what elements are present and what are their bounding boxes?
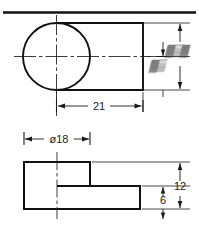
dim-12-arrow-down: [178, 201, 183, 208]
engineering-drawing: 21: [0, 0, 199, 236]
dim-21-arrow-left: [58, 104, 65, 109]
top-outer-arrow-down: [178, 82, 183, 89]
top-view: 21: [14, 15, 190, 116]
dim-diameter-18-label: ø18: [50, 133, 69, 145]
dim-6-arrow-up: [161, 187, 165, 194]
dimension-6: 6: [160, 187, 166, 219]
dim-6-label: 6: [160, 194, 166, 206]
top-view-vertical-dimensions: [143, 23, 190, 97]
dimension-diameter-18: ø18: [24, 132, 90, 145]
dim-21-arrow-right: [135, 104, 142, 109]
dim-21-label: 21: [93, 100, 105, 112]
dim-6-arrow-down: [161, 213, 165, 220]
dim-12-label: 12: [174, 180, 186, 192]
dim-d18-arrow-left: [25, 137, 32, 142]
top-inner-arrow-down: [161, 50, 165, 57]
front-view: ø18 12: [24, 132, 190, 219]
dimension-top-inner: [157, 42, 170, 97]
dim-d18-arrow-right: [82, 137, 89, 142]
dim-12-arrow-up: [178, 163, 183, 170]
drawing-canvas: 21: [0, 0, 199, 236]
top-outer-arrow-up: [178, 24, 183, 31]
dimension-12: 12: [174, 163, 186, 208]
dimension-21: 21: [57, 92, 144, 112]
